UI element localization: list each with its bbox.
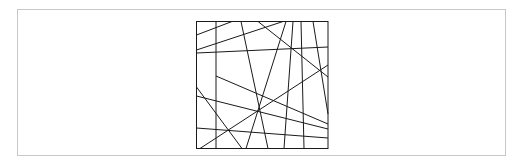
line-segment-11 <box>216 76 328 124</box>
line-arrangement-diagram <box>0 0 517 166</box>
line-segment-9 <box>301 22 304 149</box>
line-segment-7 <box>246 22 286 149</box>
line-segment-12 <box>197 87 243 149</box>
line-segment-2 <box>197 22 233 36</box>
line-segment-3 <box>197 22 284 51</box>
line-segment-8 <box>284 22 293 149</box>
line-set <box>197 22 329 149</box>
line-segment-5 <box>241 22 268 149</box>
line-segment-10 <box>313 22 328 115</box>
